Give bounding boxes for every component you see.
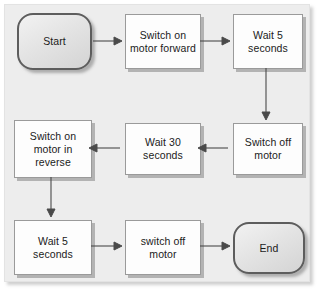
node-wait-30-seconds-label: Wait 30 seconds <box>140 136 186 162</box>
node-wait-5-seconds-top[interactable]: Wait 5 seconds <box>233 14 303 69</box>
node-start[interactable]: Start <box>17 13 92 70</box>
node-switch-on-motor-in-reverse[interactable]: Switch on motor in reverse <box>14 120 92 178</box>
node-switch-on-motor-forward-label: Switch on motor forward <box>127 29 199 55</box>
node-wait-5-seconds-bottom-label: Wait 5 seconds <box>30 235 76 261</box>
node-wait-5-seconds-top-label: Wait 5 seconds <box>245 29 291 55</box>
node-switch-on-motor-in-reverse-label: Switch on motor in reverse <box>27 130 79 169</box>
node-switch-off-motor-second[interactable]: switch off motor <box>125 220 201 275</box>
node-end[interactable]: End <box>233 222 305 274</box>
flowchart-canvas: Start Switch on motor forward Wait 5 sec… <box>0 0 318 291</box>
node-wait-5-seconds-bottom[interactable]: Wait 5 seconds <box>14 220 92 275</box>
node-wait-30-seconds[interactable]: Wait 30 seconds <box>125 123 201 175</box>
node-switch-off-motor-first[interactable]: Switch off motor <box>233 123 303 175</box>
node-switch-off-motor-second-label: switch off motor <box>138 235 189 261</box>
node-start-label: Start <box>40 35 69 48</box>
node-switch-on-motor-forward[interactable]: Switch on motor forward <box>125 14 201 69</box>
flowchart-surface: Start Switch on motor forward Wait 5 sec… <box>4 4 310 282</box>
node-switch-off-motor-first-label: Switch off motor <box>242 136 294 162</box>
node-end-label: End <box>257 242 282 255</box>
